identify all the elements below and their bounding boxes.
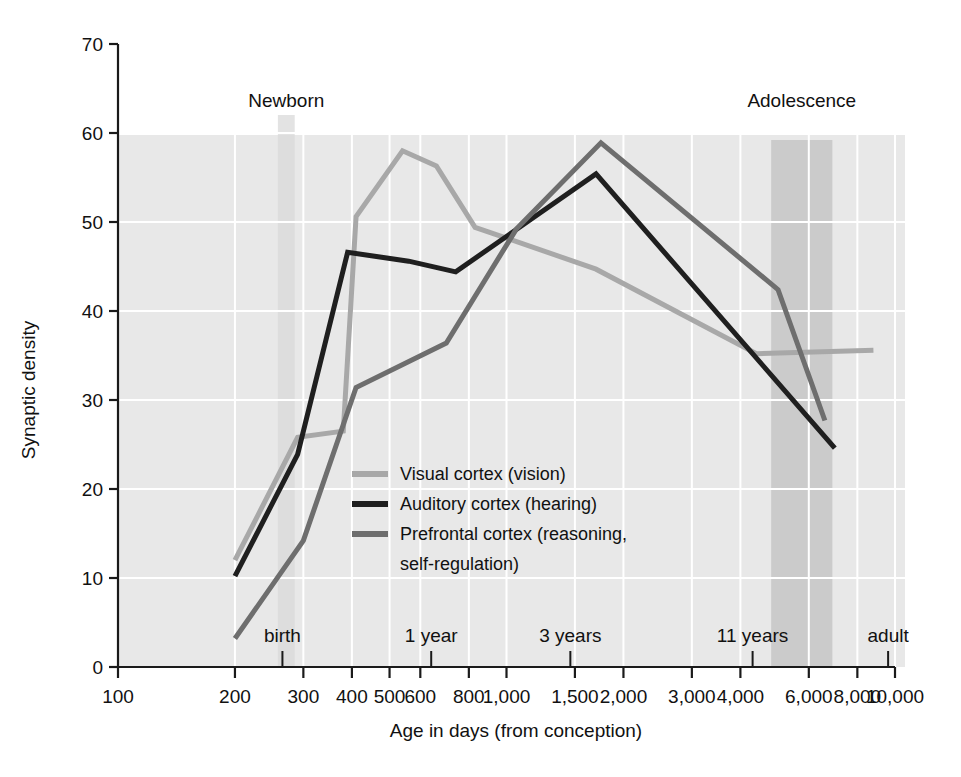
x-tick-label: 1,500 xyxy=(551,686,599,707)
stage-band xyxy=(278,115,295,667)
synaptic-density-line-chart: 1002003004005006008001,0001,5002,0003,00… xyxy=(0,0,961,777)
legend-label: self-regulation) xyxy=(400,554,519,574)
y-tick-label: 40 xyxy=(82,301,103,322)
x-tick-label: 500 xyxy=(374,686,406,707)
chart-figure: 1002003004005006008001,0001,5002,0003,00… xyxy=(0,0,961,777)
stage-tick-label: 3 years xyxy=(539,625,601,646)
x-tick-label: 1,000 xyxy=(483,686,531,707)
x-tick-label: 200 xyxy=(219,686,251,707)
legend-label: Prefrontal cortex (reasoning, xyxy=(400,524,627,544)
x-tick-label: 800 xyxy=(453,686,485,707)
y-tick-label: 30 xyxy=(82,390,103,411)
band-label: Newborn xyxy=(248,90,324,111)
x-tick-label: 3,000 xyxy=(668,686,716,707)
x-tick-label: 300 xyxy=(288,686,320,707)
band-label: Adolescence xyxy=(747,90,856,111)
y-tick-label: 20 xyxy=(82,479,103,500)
x-tick-label: 6,000 xyxy=(785,686,833,707)
y-tick-label: 60 xyxy=(82,123,103,144)
y-axis-title: Synaptic density xyxy=(18,320,39,459)
stage-tick-label: adult xyxy=(868,625,910,646)
y-tick-label: 10 xyxy=(82,568,103,589)
x-tick-label: 10,000 xyxy=(866,686,924,707)
y-tick-label: 70 xyxy=(82,34,103,55)
legend-label: Visual cortex (vision) xyxy=(400,464,566,484)
y-tick-label: 0 xyxy=(92,657,103,678)
x-tick-label: 4,000 xyxy=(717,686,765,707)
y-tick-label: 50 xyxy=(82,212,103,233)
x-axis-title: Age in days (from conception) xyxy=(390,720,642,741)
stage-tick-label: 11 years xyxy=(717,625,788,646)
x-tick-label: 100 xyxy=(102,686,134,707)
x-tick-label: 600 xyxy=(404,686,436,707)
stage-band xyxy=(771,140,832,667)
stage-tick-label: 1 year xyxy=(405,625,458,646)
legend-label: Auditory cortex (hearing) xyxy=(400,494,597,514)
x-tick-label: 2,000 xyxy=(600,686,648,707)
x-tick-label: 400 xyxy=(336,686,368,707)
stage-tick-label: birth xyxy=(264,625,301,646)
